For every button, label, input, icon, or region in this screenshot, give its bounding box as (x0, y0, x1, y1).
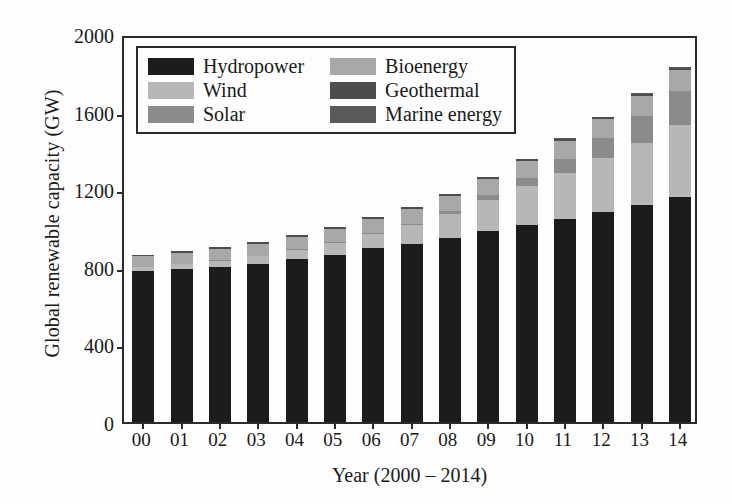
bar-segment (286, 250, 308, 259)
chart-figure: Global renewable capacity (GW) 040080012… (0, 0, 732, 504)
bar-segment (477, 231, 499, 422)
x-axis-tick-mark (411, 422, 413, 429)
bar-segment (516, 161, 538, 178)
x-axis-tick-label: 04 (275, 430, 315, 449)
bar-segment (401, 244, 423, 422)
x-axis-tick-mark (679, 422, 681, 429)
x-axis-tick-mark (257, 422, 259, 429)
x-axis-tick-label: 13 (620, 430, 660, 449)
legend-label: Hydropower (203, 55, 304, 77)
y-axis-tick-mark (117, 347, 124, 349)
bar-segment (286, 259, 308, 422)
bar-stack[interactable] (439, 194, 461, 422)
x-axis-tick-mark (372, 422, 374, 429)
bar-segment (592, 119, 614, 138)
y-axis-tick-label: 1200 (42, 181, 114, 201)
legend-color-swatch (330, 106, 376, 123)
bar-segment (592, 212, 614, 422)
bar-segment (477, 200, 499, 231)
bar-segment (132, 271, 154, 422)
bar-segment (324, 229, 346, 242)
bar-segment (209, 267, 231, 422)
y-axis-tick-label: 0 (42, 414, 114, 434)
legend-entry[interactable]: Wind (148, 79, 304, 101)
legend-label: Solar (203, 103, 245, 125)
x-axis-tick-label: 10 (505, 430, 545, 449)
x-axis-tick-mark (334, 422, 336, 429)
legend-entry[interactable]: Hydropower (148, 55, 304, 77)
legend-label: Geothermal (385, 79, 479, 101)
bar-stack[interactable] (401, 207, 423, 422)
bar-segment (324, 243, 346, 254)
bar-segment (247, 244, 269, 256)
bar-stack[interactable] (171, 251, 193, 422)
x-axis-tick-label: 08 (428, 430, 468, 449)
legend-color-swatch (148, 58, 194, 75)
x-axis-tick-label: 09 (466, 430, 506, 449)
bar-segment (401, 225, 423, 243)
bar-segment (247, 256, 269, 264)
bar-segment (324, 255, 346, 422)
bar-segment (631, 116, 653, 143)
chart-legend: HydropowerBioenergyWindGeothermalSolarMa… (136, 46, 516, 134)
bar-stack[interactable] (209, 247, 231, 422)
bar-segment (362, 234, 384, 248)
bar-segment (171, 269, 193, 422)
bar-stack[interactable] (477, 177, 499, 422)
x-axis-tick-mark (487, 422, 489, 429)
bar-segment (554, 141, 576, 159)
bar-stack[interactable] (631, 93, 653, 422)
legend-entry[interactable]: Solar (148, 103, 304, 125)
y-axis-tick-label: 400 (42, 336, 114, 356)
y-axis-tick-label: 1600 (42, 104, 114, 124)
legend-color-swatch (148, 82, 194, 99)
x-axis-tick-mark (526, 422, 528, 429)
bar-segment (592, 138, 614, 158)
bar-stack[interactable] (324, 227, 346, 422)
y-axis-tick-mark (117, 115, 124, 117)
bar-segment (477, 179, 499, 195)
x-axis-tick-label: 12 (581, 430, 621, 449)
bar-stack[interactable] (516, 159, 538, 422)
x-axis-tick-label: 03 (236, 430, 276, 449)
x-axis-tick-label: 06 (351, 430, 391, 449)
legend-entry[interactable]: Marine energy (330, 103, 502, 125)
bar-segment (516, 178, 538, 186)
bar-segment (362, 219, 384, 233)
y-axis-tick-mark (117, 192, 124, 194)
legend-color-swatch (330, 82, 376, 99)
bar-stack[interactable] (669, 67, 691, 422)
bar-segment (554, 159, 576, 173)
bar-segment (554, 219, 576, 422)
bar-stack[interactable] (286, 235, 308, 422)
bar-stack[interactable] (592, 116, 614, 422)
bar-segment (631, 205, 653, 422)
x-axis-tick-mark (142, 422, 144, 429)
legend-entry[interactable]: Bioenergy (330, 55, 502, 77)
bar-stack[interactable] (247, 242, 269, 422)
y-axis-tick-label: 2000 (42, 26, 114, 46)
bar-stack[interactable] (362, 217, 384, 422)
legend-label: Bioenergy (385, 55, 468, 77)
x-axis-tick-label: 02 (198, 430, 238, 449)
x-axis-tick-mark (219, 422, 221, 429)
bar-segment (439, 196, 461, 211)
x-axis-tick-label: 05 (313, 430, 353, 449)
bar-stack[interactable] (132, 255, 154, 422)
bar-segment (592, 158, 614, 213)
x-axis-tick-labels: 000102030405060708091011121314 (122, 430, 697, 456)
x-axis-tick-mark (564, 422, 566, 429)
bar-segment (554, 173, 576, 219)
bar-stack[interactable] (554, 138, 576, 422)
bar-segment (286, 237, 308, 249)
x-axis-tick-mark (641, 422, 643, 429)
x-axis-tick-mark (181, 422, 183, 429)
legend-entry[interactable]: Geothermal (330, 79, 502, 101)
bar-segment (401, 209, 423, 223)
bar-segment (171, 253, 193, 264)
legend-label: Wind (203, 79, 247, 101)
bar-segment (516, 186, 538, 224)
bar-segment (362, 248, 384, 422)
bar-segment (132, 256, 154, 267)
legend-color-swatch (330, 58, 376, 75)
